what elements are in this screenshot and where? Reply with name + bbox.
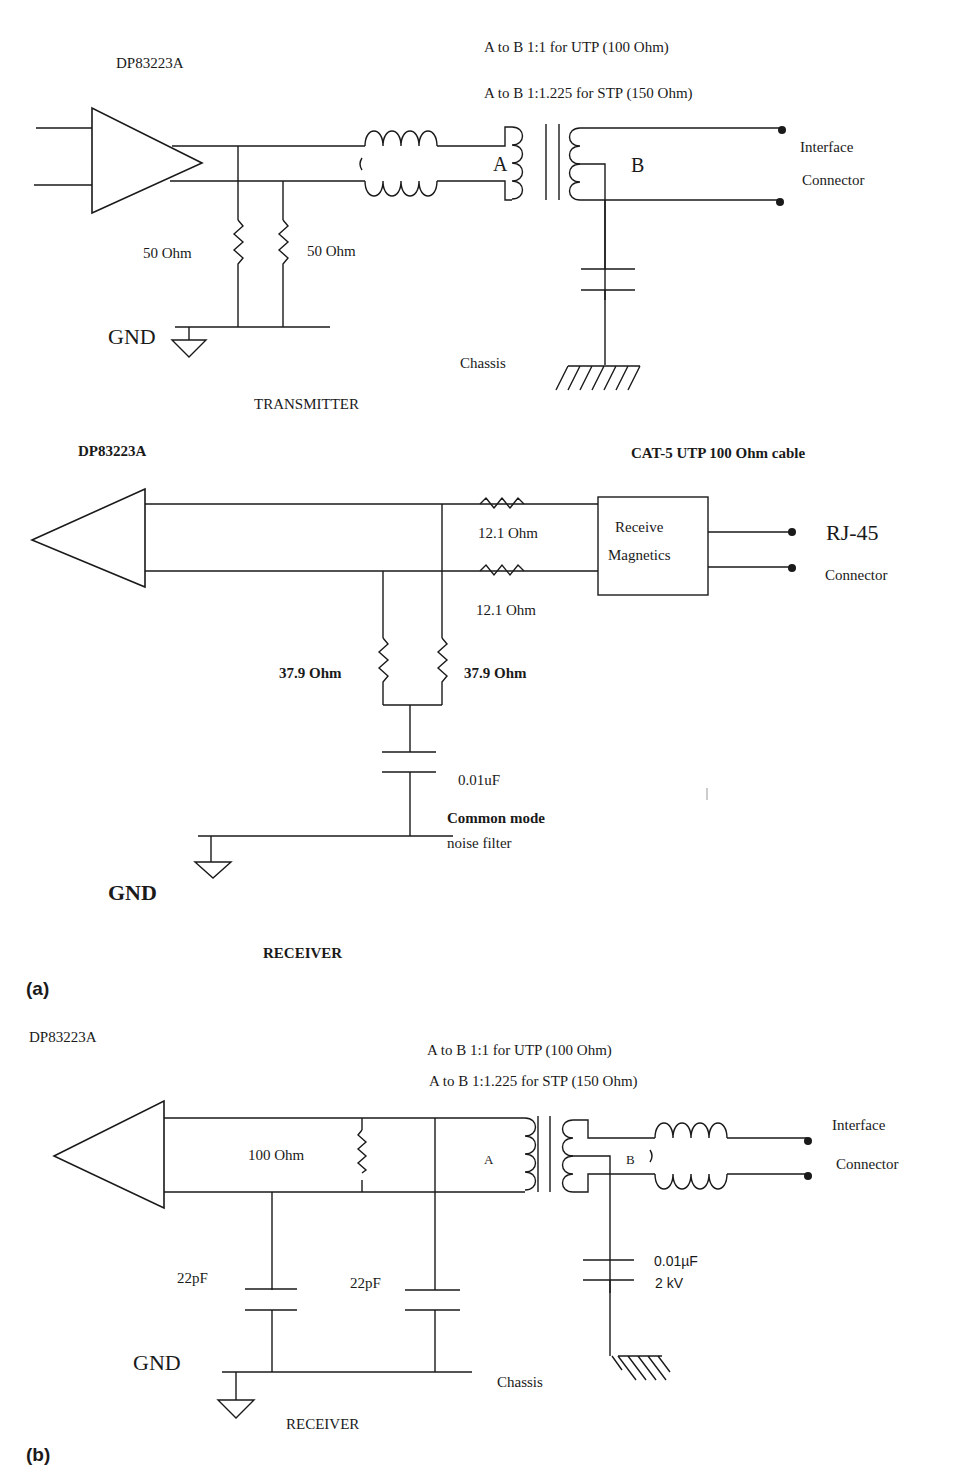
resistor-value-label: 100 Ohm [248, 1148, 304, 1163]
chassis-label: Chassis [497, 1375, 543, 1390]
connector-label-line1: Interface [800, 140, 853, 155]
primary-label: A [484, 1153, 493, 1166]
chip-label: DP83223A [116, 56, 184, 71]
capacitor-icon [405, 1290, 460, 1372]
chip-label: DP83223A [78, 444, 146, 459]
resistor-value-label: 50 Ohm [307, 244, 356, 259]
receive-magnetics-block [598, 497, 708, 595]
resistor-icon [438, 638, 447, 705]
connector-label: Connector [825, 568, 887, 583]
resistor-value-label: 12.1 Ohm [478, 526, 538, 541]
secondary-label: B [631, 155, 644, 175]
capacitor-icon [583, 1260, 634, 1356]
ratio-stp-label: A to B 1:1.225 for STP (150 Ohm) [484, 86, 693, 101]
connector-label-line2: Connector [802, 173, 864, 188]
resistor-value-label: 50 Ohm [143, 246, 192, 261]
filter-label-line2: noise filter [447, 836, 512, 851]
panel-label-b: (b) [26, 1445, 50, 1464]
section-title: TRANSMITTER [254, 397, 359, 412]
magnetics-label-line2: Magnetics [608, 548, 670, 563]
cap-value-label: 0.01uF [458, 773, 500, 788]
cable-label: CAT-5 UTP 100 Ohm cable [631, 446, 805, 461]
hv-cap-value-label: 0.01µF [654, 1254, 698, 1268]
choke-top-icon [365, 127, 512, 146]
choke-top-icon [655, 1123, 807, 1138]
connector-pin-icon [778, 126, 786, 134]
cap-value-label: 22pF [177, 1271, 208, 1286]
connector-label-line2: Connector [836, 1157, 898, 1172]
resistor-value-label: 37.9 Ohm [464, 666, 527, 681]
ground-icon [172, 327, 206, 357]
ratio-stp-label: A to B 1:1.225 for STP (150 Ohm) [429, 1074, 638, 1089]
chassis-label: Chassis [460, 356, 506, 371]
connector-label-line1: Interface [832, 1118, 885, 1133]
receiver-circuit-a [32, 489, 796, 878]
resistor-icon [480, 498, 524, 508]
capacitor-icon [581, 200, 635, 365]
receiver-amplifier-icon [54, 1101, 164, 1208]
choke-bottom-icon [365, 181, 512, 200]
panel-label-a: (a) [26, 979, 49, 998]
resistor-icon [358, 1130, 366, 1173]
primary-label: A [493, 154, 507, 174]
resistor-icon [234, 220, 243, 327]
connector-pin-icon [776, 198, 784, 206]
rj45-label: RJ-45 [826, 522, 879, 544]
resistor-icon [279, 220, 288, 327]
capacitor-icon [382, 752, 436, 836]
ratio-utp-label: A to B 1:1 for UTP (100 Ohm) [484, 40, 669, 55]
secondary-label: B [626, 1153, 635, 1166]
ground-icon [195, 836, 231, 878]
section-title: RECEIVER [263, 946, 342, 961]
hv-cap-voltage-label: 2 kV [655, 1276, 683, 1290]
receiver-amplifier-icon [32, 489, 145, 587]
rj45-pin-icon [788, 564, 796, 572]
filter-label-line1: Common mode [447, 811, 545, 826]
chassis-ground-icon [556, 366, 640, 390]
gnd-label: GND [133, 1352, 181, 1374]
transformer-primary-icon [525, 1118, 536, 1190]
driver-amplifier-icon [92, 108, 202, 213]
resistor-icon [379, 638, 388, 705]
gnd-label: GND [108, 882, 157, 904]
resistor-value-label: 12.1 Ohm [476, 603, 536, 618]
capacitor-icon [245, 1289, 297, 1372]
resistor-icon [480, 565, 524, 575]
transformer-primary-icon [512, 127, 523, 199]
connector-pin-icon [804, 1172, 812, 1180]
section-title: RECEIVER [286, 1417, 359, 1432]
rj45-pin-icon [788, 528, 796, 536]
gnd-label: GND [108, 326, 156, 348]
chassis-ground-icon [612, 1356, 670, 1380]
resistor-value-label: 37.9 Ohm [279, 666, 342, 681]
cap-value-label: 22pF [350, 1276, 381, 1291]
ratio-utp-label: A to B 1:1 for UTP (100 Ohm) [427, 1043, 612, 1058]
schematic-canvas [0, 0, 953, 1467]
choke-bottom-icon [655, 1174, 807, 1189]
magnetics-label-line1: Receive [615, 520, 663, 535]
ground-icon [218, 1372, 254, 1418]
connector-pin-icon [804, 1137, 812, 1145]
chip-label: DP83223A [29, 1030, 97, 1045]
